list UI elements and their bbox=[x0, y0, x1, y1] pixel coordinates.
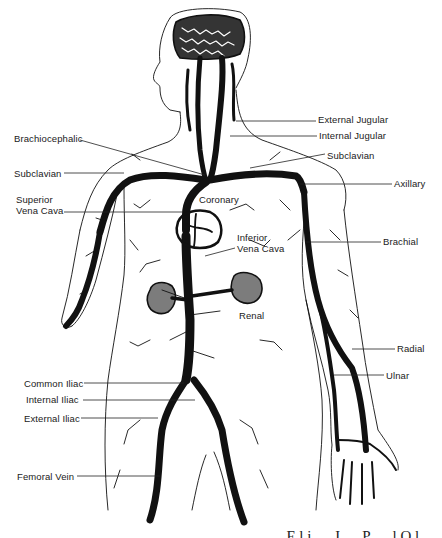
label-renal: Renal bbox=[239, 310, 264, 321]
kidneys bbox=[147, 273, 262, 314]
label-external-iliac: External Iliac bbox=[24, 413, 80, 424]
label-internal-iliac: Internal Iliac bbox=[26, 394, 79, 405]
jugular-veins bbox=[187, 58, 234, 180]
label-brachial: Brachial bbox=[383, 236, 418, 247]
label-subclavian-right: Subclavian bbox=[327, 150, 374, 161]
label-ulnar: Ulnar bbox=[386, 370, 409, 381]
label-common-iliac: Common Iliac bbox=[24, 378, 83, 389]
clipped-caption-text: … E l i … J … P … l O l … bbox=[0, 526, 442, 538]
iliac-femoral-veins bbox=[150, 380, 244, 522]
label-femoral-vein: Femoral Vein bbox=[17, 471, 74, 482]
label-internal-jugular: Internal Jugular bbox=[319, 130, 386, 141]
brain-network bbox=[173, 15, 244, 59]
body-outline bbox=[62, 9, 399, 510]
label-brachiocephalic: Brachiocephalic bbox=[14, 133, 83, 144]
label-axillary: Axillary bbox=[394, 178, 425, 189]
label-external-jugular: External Jugular bbox=[318, 114, 388, 125]
label-radial: Radial bbox=[397, 343, 425, 354]
label-subclavian-left: Subclavian bbox=[14, 168, 61, 179]
label-superior-vena-cava: Superior Vena Cava bbox=[16, 194, 63, 216]
label-inferior-vena-cava: Inferior Vena Cava bbox=[237, 232, 284, 254]
label-coronary: Coronary bbox=[199, 194, 239, 205]
